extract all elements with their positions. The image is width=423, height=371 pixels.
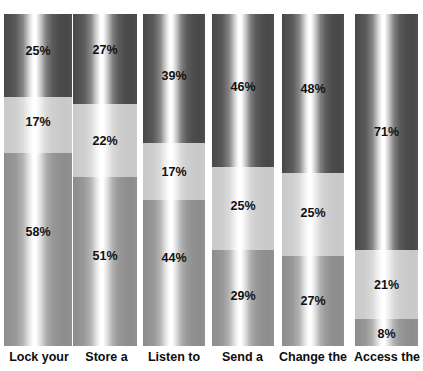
segment-middle[interactable]: 21% [355, 250, 418, 320]
segment-value-label: 25% [282, 206, 344, 220]
bar-stack: 71% 21% 8% [355, 14, 418, 346]
segment-value-label: 48% [282, 82, 344, 96]
segment-bottom[interactable]: 51% [73, 177, 137, 346]
segment-bottom[interactable]: 29% [212, 250, 274, 346]
bar-stack: 25% 17% 58% [4, 14, 72, 346]
segment-value-label: 29% [212, 289, 274, 303]
bar-stack: 27% 22% 51% [73, 14, 137, 346]
cylinder-sheen [355, 319, 418, 346]
cylinder-sheen [4, 97, 72, 153]
cylinder-sheen [73, 177, 137, 346]
cylinder-sheen [4, 14, 72, 97]
cylinder-sheen [212, 167, 274, 250]
segment-value-label: 44% [143, 251, 205, 265]
segment-value-label: 46% [212, 80, 274, 94]
segment-bottom[interactable]: 58% [4, 153, 72, 346]
bar-group-6[interactable]: 71% 21% 8% [355, 14, 418, 346]
cylinder-sheen [282, 173, 344, 256]
segment-top[interactable]: 27% [73, 14, 137, 104]
segment-middle[interactable]: 25% [212, 167, 274, 250]
bar-group-4[interactable]: 46% 25% 29% [212, 14, 274, 346]
bar-stack: 48% 25% 27% [282, 14, 344, 346]
segment-value-label: 21% [355, 278, 418, 292]
segment-value-label: 22% [73, 134, 137, 148]
segment-value-label: 25% [4, 44, 72, 58]
cylinder-sheen [212, 250, 274, 346]
cylinder-sheen [143, 14, 205, 143]
segment-bottom[interactable]: 27% [282, 256, 344, 346]
cylinder-sheen [143, 143, 205, 199]
segment-top[interactable]: 71% [355, 14, 418, 250]
segment-value-label: 17% [143, 165, 205, 179]
segment-value-label: 27% [282, 294, 344, 308]
stacked-bar-chart: 25% 17% 58% 27% [0, 0, 423, 371]
cylinder-sheen [143, 200, 205, 346]
cylinder-sheen [282, 14, 344, 173]
cylinder-sheen [355, 250, 418, 320]
segment-value-label: 39% [143, 69, 205, 83]
cylinder-sheen [212, 14, 274, 167]
segment-bottom[interactable]: 44% [143, 200, 205, 346]
cylinder-sheen [282, 256, 344, 346]
category-label-4: Send a [211, 350, 274, 364]
category-label-2: Store a [75, 350, 138, 364]
segment-value-label: 58% [4, 225, 72, 239]
segment-value-label: 27% [73, 43, 137, 57]
segment-value-label: 51% [73, 249, 137, 263]
segment-value-label: 8% [355, 327, 418, 341]
segment-top[interactable]: 48% [282, 14, 344, 173]
category-label-1: Lock your [0, 350, 78, 364]
category-label-5: Change the [278, 350, 348, 364]
bar-stack: 46% 25% 29% [212, 14, 274, 346]
category-label-3: Listen to [141, 350, 207, 364]
segment-middle[interactable]: 25% [282, 173, 344, 256]
bar-group-5[interactable]: 48% 25% 27% [282, 14, 344, 346]
bar-stack: 39% 17% 44% [143, 14, 205, 346]
bar-group-1[interactable]: 25% 17% 58% [4, 14, 72, 346]
segment-middle[interactable]: 22% [73, 104, 137, 177]
segment-bottom[interactable]: 8% [355, 319, 418, 346]
segment-value-label: 71% [355, 125, 418, 139]
segment-middle[interactable]: 17% [4, 97, 72, 153]
cylinder-sheen [73, 14, 137, 104]
plot-area: 25% 17% 58% 27% [0, 0, 423, 371]
cylinder-sheen [73, 104, 137, 177]
cylinder-sheen [355, 14, 418, 250]
segment-top[interactable]: 46% [212, 14, 274, 167]
segment-middle[interactable]: 17% [143, 143, 205, 199]
bar-group-3[interactable]: 39% 17% 44% [143, 14, 205, 346]
segment-value-label: 25% [212, 199, 274, 213]
category-label-6: Access the [352, 350, 422, 364]
segment-top[interactable]: 39% [143, 14, 205, 143]
cylinder-sheen [4, 153, 72, 346]
segment-top[interactable]: 25% [4, 14, 72, 97]
segment-value-label: 17% [4, 115, 72, 129]
bar-group-2[interactable]: 27% 22% 51% [73, 14, 137, 346]
